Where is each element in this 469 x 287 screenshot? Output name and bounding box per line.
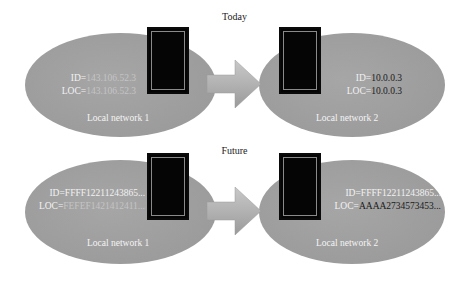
loc-value: AAAA2734573453... [359,201,441,211]
today-panel: Today ID=143.106.52.3 LOC=143.106.52.3 I… [0,0,469,143]
loc-key: LOC= [39,201,63,211]
id-value: FFFF12211243865... [65,188,145,198]
network-name-2: Local network 2 [316,238,378,248]
network-2-addresses: ID=FFFF12211243865... LOC=AAAA2734573453… [335,187,441,213]
id-value: FFFF12211243865... [361,188,441,198]
panel-title-future: Future [0,145,469,156]
network-name-1: Local network 1 [87,113,149,123]
loc-key: LOC= [335,201,359,211]
network-1-addresses: ID=FFFF12211243865... LOC=FEFEF142141241… [39,187,145,213]
id-key: ID= [345,188,360,198]
network-2-addresses: ID=10.0.0.3 LOC=10.0.0.3 [347,72,402,98]
loc-value: 10.0.0.3 [371,86,402,96]
network-1-addresses: ID=143.106.52.3 LOC=143.106.52.3 [62,72,136,98]
device-box-icon [147,27,189,94]
id-key: ID= [356,73,371,83]
id-key: ID= [49,188,64,198]
loc-key: LOC= [62,86,86,96]
device-box-icon [147,153,189,220]
id-key: ID= [71,73,86,83]
right-arrow-icon [207,56,277,112]
device-box-icon [279,27,321,94]
loc-value: FEFEF1421412411... [63,201,145,211]
network-name-1: Local network 1 [87,238,149,248]
network-name-2: Local network 2 [316,113,378,123]
id-value: 10.0.0.3 [371,73,402,83]
device-box-icon [279,153,321,220]
future-panel: Future ID=FFFF12211243865... LOC=FEFEF14… [0,135,469,278]
panel-title-today: Today [0,11,469,22]
id-value: 143.106.52.3 [86,73,136,83]
loc-key: LOC= [347,86,371,96]
right-arrow-icon [207,183,277,239]
loc-value: 143.106.52.3 [86,86,136,96]
